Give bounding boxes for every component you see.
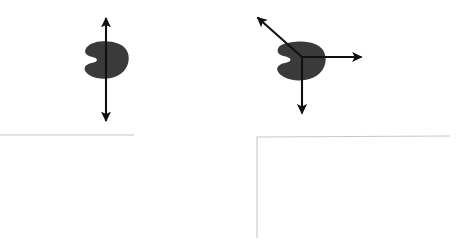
figure-canvas <box>0 0 461 241</box>
right-figure <box>0 0 461 241</box>
